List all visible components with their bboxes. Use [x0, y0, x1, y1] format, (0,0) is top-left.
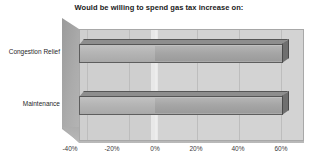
- xtick-label-zero: 0%: [140, 145, 170, 152]
- category-label-maintenance: Maintenance: [0, 100, 60, 107]
- bar-face-positive: [155, 46, 282, 61]
- xtick-label-minus40: -40%: [55, 145, 85, 152]
- xtick-label-40: 40%: [223, 145, 253, 152]
- chart-left-wall: [62, 18, 79, 142]
- chart-container: Would be willing to spend gas tax increa…: [0, 0, 318, 158]
- xtick-label-20: 20%: [181, 145, 211, 152]
- xtick-label-minus20: -20%: [97, 145, 127, 152]
- bar-top-chamfer: [79, 91, 288, 97]
- bar-congestion-relief[interactable]: [79, 44, 283, 63]
- bar-maintenance[interactable]: [79, 96, 283, 115]
- category-label-congestion-relief: Congestion Relief: [0, 48, 60, 55]
- panel-bottom-line: [79, 140, 304, 141]
- xtick-label-60: 60%: [266, 145, 296, 152]
- bar-face-positive: [155, 98, 282, 113]
- panel-top-line: [79, 29, 304, 30]
- bar-face: [79, 44, 283, 63]
- chart-3d-scene: [0, 0, 318, 158]
- bar-face: [79, 96, 283, 115]
- bar-top-chamfer: [79, 39, 288, 45]
